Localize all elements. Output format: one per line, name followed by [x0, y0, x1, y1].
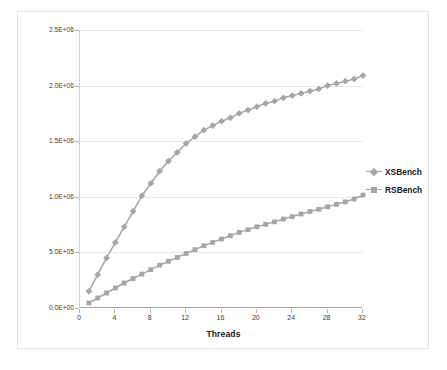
data-point-marker: [342, 78, 349, 85]
y-tick-label: 5.0E+05: [0, 248, 74, 255]
data-point-marker: [157, 263, 162, 268]
data-point-marker: [236, 110, 243, 117]
data-point-marker: [308, 209, 313, 214]
x-tick-label: 28: [323, 314, 331, 321]
x-tick-label: 4: [112, 314, 116, 321]
data-point-marker: [299, 212, 304, 217]
data-point-marker: [325, 204, 330, 209]
data-series-layer: [80, 30, 363, 308]
x-tick-label: 0: [77, 314, 81, 321]
x-tick-label: 8: [148, 314, 152, 321]
data-point-marker: [262, 100, 269, 107]
series-rsbench: [86, 193, 365, 306]
x-tick-mark: [185, 309, 186, 313]
data-point-marker: [218, 118, 225, 125]
legend-item-xsbench[interactable]: XSBench: [366, 164, 444, 179]
x-tick-mark: [150, 309, 151, 313]
chart-figure: Cross Section Lookups/sec 0.0E+005.0E+05…: [0, 0, 447, 370]
chart-legend: XSBench RSBench: [366, 164, 444, 200]
data-point-marker: [95, 296, 100, 301]
data-point-marker: [86, 301, 91, 306]
x-tick-mark: [291, 309, 292, 313]
data-point-marker: [316, 207, 321, 212]
data-point-marker: [254, 224, 259, 229]
data-point-marker: [113, 286, 118, 291]
data-point-marker: [281, 217, 286, 222]
data-point-marker: [219, 237, 224, 242]
data-point-marker: [122, 281, 127, 286]
data-point-marker: [228, 233, 233, 238]
y-tick-label: 2.0E+06: [0, 82, 74, 89]
data-point-marker: [175, 255, 180, 260]
data-point-marker: [290, 214, 295, 219]
series-xsbench: [85, 72, 366, 295]
data-point-marker: [227, 114, 234, 121]
data-point-marker: [112, 239, 119, 246]
data-point-marker: [334, 202, 339, 207]
x-tick-mark: [327, 309, 328, 313]
data-point-marker: [184, 251, 189, 256]
legend-marker-square-icon: [366, 185, 382, 195]
data-point-marker: [271, 98, 278, 105]
legend-label-xsbench: XSBench: [385, 167, 422, 177]
legend-label-rsbench: RSBench: [385, 185, 422, 195]
data-point-marker: [352, 197, 357, 202]
data-point-marker: [166, 259, 171, 264]
data-point-marker: [333, 80, 340, 87]
x-tick-mark: [79, 309, 80, 313]
data-point-marker: [307, 88, 314, 95]
data-point-marker: [289, 92, 296, 99]
data-point-marker: [351, 76, 358, 83]
data-point-marker: [140, 272, 145, 277]
x-tick-label: 12: [181, 314, 189, 321]
data-point-marker: [209, 122, 216, 129]
data-point-marker: [315, 86, 322, 93]
data-point-marker: [85, 288, 92, 295]
y-tick-label: 1.5E+06: [0, 137, 74, 144]
data-point-marker: [148, 267, 153, 272]
data-point-marker: [280, 94, 287, 101]
data-point-marker: [298, 90, 305, 97]
data-point-marker: [253, 103, 260, 110]
data-point-marker: [246, 227, 251, 232]
data-point-marker: [324, 82, 331, 89]
x-tick-mark: [256, 309, 257, 313]
y-tick-label: 2.5E+06: [0, 26, 74, 33]
data-point-marker: [201, 243, 206, 248]
series-line: [89, 76, 363, 292]
data-point-marker: [104, 291, 109, 296]
y-tick-label: 1.0E+06: [0, 193, 74, 200]
data-point-marker: [210, 240, 215, 245]
data-point-marker: [263, 222, 268, 227]
data-point-marker: [237, 230, 242, 235]
x-tick-mark: [221, 309, 222, 313]
x-tick-label: 24: [287, 314, 295, 321]
data-point-marker: [343, 199, 348, 204]
legend-marker-diamond-icon: [366, 167, 382, 177]
data-point-marker: [131, 276, 136, 281]
x-tick-label: 16: [217, 314, 225, 321]
data-point-marker: [361, 193, 366, 198]
data-point-marker: [272, 219, 277, 224]
data-point-marker: [245, 107, 252, 114]
x-tick-mark: [114, 309, 115, 313]
x-axis-title: Threads: [0, 329, 447, 339]
data-point-marker: [130, 208, 137, 215]
x-tick-mark: [362, 309, 363, 313]
data-point-marker: [193, 247, 198, 252]
x-tick-label: 20: [252, 314, 260, 321]
data-point-marker: [121, 223, 128, 230]
legend-item-rsbench[interactable]: RSBench: [366, 182, 444, 197]
plot-area: [79, 30, 362, 308]
data-point-marker: [103, 255, 110, 262]
x-tick-label: 32: [358, 314, 366, 321]
data-point-marker: [94, 271, 101, 278]
y-tick-label: 0.0E+00: [0, 304, 74, 311]
